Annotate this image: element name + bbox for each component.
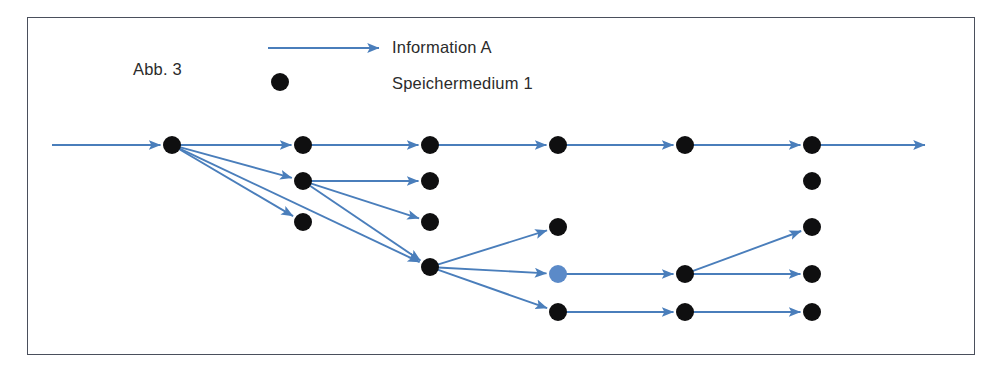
storage-node[interactable]: [549, 136, 567, 154]
storage-node[interactable]: [421, 258, 439, 276]
edge-layer: [52, 145, 925, 312]
node-layer: [163, 136, 821, 321]
information-flow-arrow: [693, 231, 802, 271]
information-flow-arrow: [310, 185, 421, 260]
storage-node[interactable]: [803, 303, 821, 321]
information-flow-arrow: [438, 270, 548, 309]
storage-node[interactable]: [421, 213, 439, 231]
storage-node[interactable]: [163, 136, 181, 154]
information-flow-arrow: [438, 267, 547, 273]
graph-canvas: [0, 0, 1004, 376]
figure-label: Abb. 3: [133, 60, 182, 79]
storage-node[interactable]: [294, 172, 312, 190]
storage-node[interactable]: [803, 172, 821, 190]
storage-node[interactable]: [803, 265, 821, 283]
information-flow-arrow: [180, 147, 292, 178]
legend-label-speichermedium-1: Speichermedium 1: [392, 74, 533, 93]
storage-node[interactable]: [803, 218, 821, 236]
storage-node[interactable]: [549, 218, 567, 236]
storage-node[interactable]: [549, 303, 567, 321]
diagram-stage: Abb. 3 Information A Speichermedium 1: [0, 0, 1004, 376]
storage-node[interactable]: [676, 136, 694, 154]
storage-node[interactable]: [803, 136, 821, 154]
storage-node[interactable]: [676, 265, 694, 283]
legend-label-information-a: Information A: [392, 38, 492, 57]
information-flow-arrow: [438, 230, 547, 264]
legend-dot-icon: [271, 73, 289, 91]
storage-node[interactable]: [294, 213, 312, 231]
storage-node[interactable]: [421, 136, 439, 154]
information-flow-arrow: [311, 183, 419, 218]
information-flow-arrow: [179, 148, 419, 262]
storage-node[interactable]: [421, 172, 439, 190]
storage-node[interactable]: [294, 136, 312, 154]
storage-node-highlighted[interactable]: [549, 265, 567, 283]
storage-node[interactable]: [676, 303, 694, 321]
information-flow-arrow: [179, 149, 293, 216]
